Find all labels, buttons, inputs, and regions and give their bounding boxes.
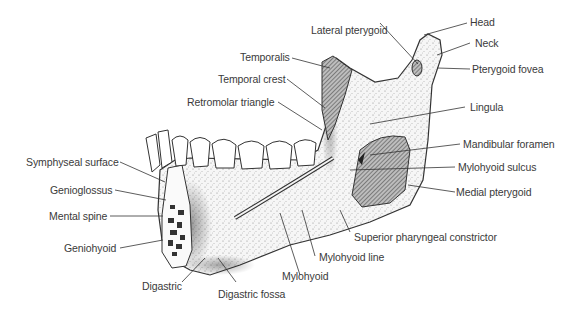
- label-superior-pharyngeal-constrictor: Superior pharyngeal constrictor: [354, 231, 497, 243]
- label-mylohyoid: Mylohyoid: [282, 270, 328, 282]
- label-medial-pterygoid: Medial pterygoid: [456, 186, 531, 198]
- label-lingula: Lingula: [470, 101, 503, 113]
- mandible-diagram: Head Lateral pterygoid Neck Pterygoid fo…: [0, 0, 570, 315]
- label-mental-spine: Mental spine: [49, 210, 107, 222]
- label-retromolar-triangle: Retromolar triangle: [187, 96, 274, 108]
- label-temporal-crest: Temporal crest: [218, 73, 285, 85]
- label-symphyseal-surface: Symphyseal surface: [26, 156, 119, 168]
- label-mylohyoid-sulcus: Mylohyoid sulcus: [458, 161, 536, 173]
- label-pterygoid-fovea: Pterygoid fovea: [472, 63, 543, 75]
- label-geniohyoid: Geniohyoid: [64, 242, 116, 254]
- label-mylohyoid-line: Mylohyoid line: [319, 251, 384, 263]
- label-head: Head: [470, 16, 495, 28]
- label-lateral-pterygoid: Lateral pterygoid: [311, 24, 388, 36]
- label-genioglossus: Genioglossus: [50, 184, 112, 196]
- label-digastric-fossa: Digastric fossa: [218, 288, 285, 300]
- label-digastric: Digastric: [142, 280, 182, 292]
- label-temporalis: Temporalis: [240, 51, 290, 63]
- label-neck: Neck: [475, 37, 499, 49]
- label-mandibular-foramen: Mandibular foramen: [463, 138, 555, 150]
